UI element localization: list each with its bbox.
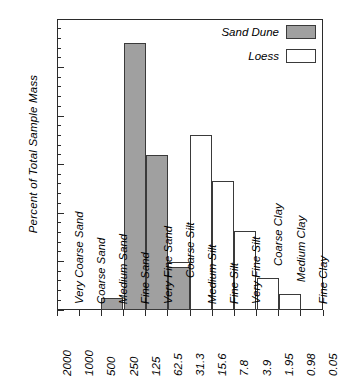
y-axis-tick-major (57, 310, 64, 311)
x-axis-tick (190, 310, 191, 316)
y-axis-tick-minor (57, 38, 61, 39)
bar-loess-fine-silt (212, 181, 234, 310)
x-axis-tick (101, 310, 102, 316)
x-axis-tick (256, 310, 257, 316)
y-axis-tick-major (57, 164, 64, 165)
x-axis-tick-label: 250 (128, 357, 140, 377)
bar-sand-dune-coarse-silt (168, 267, 190, 310)
bar-loess-coarse-clay (257, 278, 279, 310)
y-axis-tick-minor (57, 271, 61, 272)
x-axis-tick (323, 310, 324, 316)
x-axis-tick-label: 0.05 (327, 353, 339, 376)
y-axis-tick-minor (57, 135, 61, 136)
legend-swatch-loess (286, 49, 316, 63)
y-axis-tick-minor (57, 96, 61, 97)
bar-loess-medium-clay (279, 294, 301, 310)
x-axis-tick (57, 310, 58, 316)
x-axis-tick (212, 310, 213, 316)
y-axis-tick-minor (57, 290, 61, 291)
legend-item-sand-dune: Sand Dune (196, 22, 316, 41)
x-axis-tick-label: 2000 (61, 350, 73, 376)
y-axis-tick-minor (57, 242, 61, 243)
x-axis-tick-label: 3.9 (261, 360, 273, 376)
y-axis-tick-minor (57, 183, 61, 184)
y-axis-tick-major (57, 67, 64, 68)
x-axis-tick (300, 310, 301, 316)
legend-label-loess: Loess (248, 50, 279, 62)
x-axis-tick (278, 310, 279, 316)
bar-loess-very-fine-silt (234, 231, 256, 310)
y-axis-tick-minor (57, 145, 61, 146)
bar-sand-dune-very-fine-sand (146, 155, 168, 310)
legend-swatch-sand-dune (286, 25, 316, 39)
x-axis-tick-label: 7.8 (238, 360, 250, 376)
y-axis-tick-minor (57, 222, 61, 223)
y-axis-tick-minor (57, 280, 61, 281)
bar-sand-dune-fine-sand (124, 43, 146, 310)
y-axis-tick-minor (57, 77, 61, 78)
y-axis-tick-minor (57, 86, 61, 87)
x-axis-tick (145, 310, 146, 316)
y-axis-tick-minor (57, 28, 61, 29)
x-axis-tick-label: 15.6 (216, 353, 228, 376)
x-axis-tick (79, 310, 80, 316)
y-axis-tick-major (57, 261, 64, 262)
x-axis-tick-label: 1000 (83, 350, 95, 376)
y-axis-tick-minor (57, 300, 61, 301)
y-axis-tick-minor (57, 106, 61, 107)
x-axis-tick (123, 310, 124, 316)
y-axis-tick-minor (57, 251, 61, 252)
y-axis-tick-minor (57, 48, 61, 49)
y-axis-tick-minor (57, 232, 61, 233)
y-axis-tick-minor (57, 125, 61, 126)
x-axis-tick-label: 1.95 (283, 353, 295, 376)
y-axis-tick-major (57, 19, 64, 20)
x-axis-tick-label: 500 (105, 357, 117, 377)
x-axis-tick-label: 0.98 (305, 353, 317, 376)
legend-item-loess: Loess (196, 46, 316, 65)
x-axis-tick-label: 31.3 (194, 353, 206, 376)
y-axis-tick-minor (57, 203, 61, 204)
legend-label-sand-dune: Sand Dune (221, 26, 279, 38)
bar-loess-medium-silt (190, 135, 212, 310)
x-axis-tick-label: 62.5 (172, 353, 184, 376)
x-axis-tick (234, 310, 235, 316)
y-axis-tick-minor (57, 193, 61, 194)
y-axis-tick-major (57, 116, 64, 117)
x-axis-tick (167, 310, 168, 316)
legend: Sand Dune Loess (196, 22, 316, 70)
y-axis-tick-minor (57, 154, 61, 155)
y-axis-tick-minor (57, 57, 61, 58)
y-axis-title: Percent of Total Sample Mass (27, 49, 39, 259)
y-axis-tick-minor (57, 174, 61, 175)
bar-sand-dune-medium-sand (101, 298, 123, 310)
y-axis-tick-major (57, 213, 64, 214)
x-axis-tick-label: 125 (150, 357, 162, 377)
